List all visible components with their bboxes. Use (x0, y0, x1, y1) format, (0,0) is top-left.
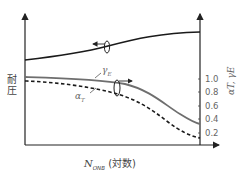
gamma-e-label: γE (102, 65, 111, 77)
right-tick-0.8: 0.8 (205, 88, 219, 97)
gamma-e-leader (95, 73, 101, 78)
right-axis-label: αT, γE (226, 67, 236, 95)
right-tick-0.6: 0.6 (205, 102, 219, 111)
x-axis-label: NONB (対数) (84, 155, 136, 171)
alpha-t-label: αT (75, 91, 85, 103)
left-axis-label-char-2: 圧 (6, 85, 18, 96)
left-axis-label: 耐 圧 (6, 74, 18, 96)
right-tick-0.4: 0.4 (205, 115, 219, 124)
right-tick-1.0: 1.0 (205, 75, 219, 84)
right-tick-0.2: 0.2 (205, 129, 219, 138)
breakdown-voltage-curve (25, 32, 200, 60)
left-axis-label-char-1: 耐 (6, 74, 18, 85)
gamma-e-curve (25, 77, 200, 124)
